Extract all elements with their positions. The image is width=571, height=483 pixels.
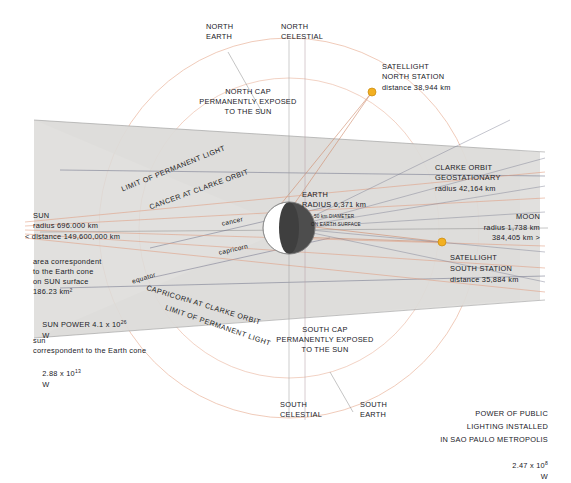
- label-north-earth: NORTH EARTH: [206, 22, 233, 42]
- sun-area-line-1: area correspondent: [33, 257, 102, 267]
- earth-radius: RADIUS 6,371 km: [302, 200, 366, 210]
- footer-value-exponent: 8: [545, 460, 548, 466]
- satellite-north-name: SATELLIGHT: [382, 62, 429, 72]
- sun-power: SUN POWER 4.1 x 1026 W: [33, 307, 127, 351]
- sun-area-line-2: to the Earth cone: [33, 267, 94, 277]
- footer-line-1: POWER OF PUBLIC: [420, 409, 548, 419]
- sun-corr-value: 2.88 x 1013 W: [33, 356, 81, 400]
- leader-south-earth: [330, 372, 353, 412]
- sun-corr-exponent: 13: [75, 368, 81, 374]
- satellite-north-marker: [368, 88, 376, 96]
- label-south-celestial: SOUTH CELESTIAL: [280, 400, 322, 420]
- sun-corr-line-2: correspondent to the Earth cone: [33, 346, 146, 356]
- sun-name: SUN: [33, 211, 49, 221]
- sun-radius: radius 696.000 km: [33, 221, 98, 231]
- satellite-north-station: NORTH STATION: [382, 72, 444, 82]
- clarke-line-2: GEOSTATIONARY: [435, 173, 501, 183]
- sun-area-line-3: on SUN surface: [33, 277, 89, 287]
- footer-value: 2.47 x 108 W: [420, 448, 548, 483]
- satellite-north-distance: distance 38,944 km: [382, 83, 451, 93]
- label-north-celestial: NORTH CELESTIAL: [281, 22, 323, 42]
- sun-corr-unit: W: [42, 380, 49, 389]
- label-north-cap: NORTH CAP PERMANENTLY EXPOSED TO THE SUN: [148, 87, 348, 118]
- sun-distance: < distance 149,600,000 km: [25, 232, 120, 242]
- footer-value-unit: W: [541, 472, 548, 481]
- sun-power-exponent: 26: [121, 319, 127, 325]
- satellite-south-distance: distance 35,884 km: [450, 275, 519, 285]
- sun-area-value: 186.23 km²: [33, 287, 72, 297]
- earth-spot-diameter: 50 km DIAMETER: [314, 214, 354, 220]
- clarke-line-1: CLARKE ORBIT: [435, 163, 492, 173]
- satellite-south-station: SOUTH STATION: [450, 264, 512, 274]
- footer-line-3: IN SAO PAULO METROPOLIS: [420, 435, 548, 445]
- clarke-line-3: radius 42,164 km: [435, 184, 496, 194]
- sun-corr-prefix: 2.88 x 10: [42, 370, 75, 379]
- moon-radius: radius 1,738 km: [440, 223, 540, 233]
- satellite-south-name: SATELLIGHT: [450, 253, 497, 263]
- sun-corr-line-1: sun: [33, 336, 46, 346]
- moon-distance: 384,405 km >: [440, 233, 540, 243]
- earth-spot-surface: ON EARTH SURFACE: [311, 222, 361, 228]
- sun-power-prefix: SUN POWER 4.1 x 10: [42, 321, 120, 330]
- earth-name: EARTH: [302, 190, 328, 200]
- label-south-earth: SOUTH EARTH: [360, 400, 387, 420]
- footer-value-prefix: 2.47 x 10: [512, 462, 545, 471]
- footer-line-2: LIGHTING INSTALLED: [420, 422, 548, 432]
- moon-name: MOON: [440, 212, 540, 222]
